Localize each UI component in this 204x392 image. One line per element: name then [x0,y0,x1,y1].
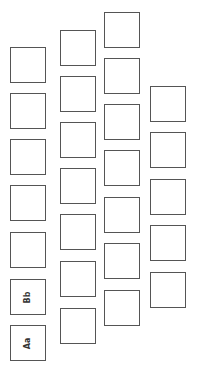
box-c4-r2 [150,132,186,168]
box-c4-r1 [150,86,186,122]
box-c2-r3 [60,122,96,158]
box-c4-r5 [150,272,186,308]
box-c1-r3 [10,139,46,175]
box-c3-r3 [104,104,140,140]
box-c2-r5 [60,214,96,250]
box-c1-r6: Bb [10,279,46,315]
box-c2-r6 [60,261,96,297]
box-c3-r7 [104,290,140,326]
box-c3-r5 [104,197,140,233]
box-c4-r4 [150,225,186,261]
box-c3-r2 [104,58,140,94]
box-c1-r2 [10,93,46,129]
box-c3-r6 [104,243,140,279]
box-label: Aa [24,337,33,349]
box-c2-r1 [60,30,96,66]
box-c4-r3 [150,179,186,215]
box-c1-r1 [10,47,46,83]
box-c3-r1 [104,12,140,48]
box-c2-r7 [60,308,96,344]
box-label: Bb [23,291,32,303]
box-c2-r4 [60,168,96,204]
box-c2-r2 [60,76,96,112]
box-c3-r4 [104,150,140,186]
box-c1-r7: Aa [10,325,46,361]
box-c1-r4 [10,185,46,221]
box-c1-r5 [10,232,46,268]
